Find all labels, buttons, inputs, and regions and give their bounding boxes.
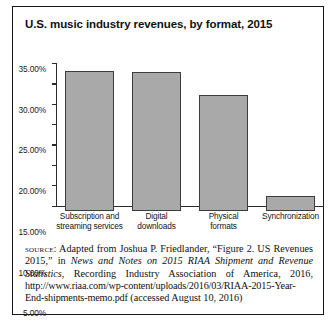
source-note: source: Adapted from Joshua P. Friedland… [25, 243, 313, 304]
y-axis-tick-mark: 5.00% [52, 185, 56, 186]
x-axis-category-label: Digitaldownloads [123, 211, 190, 231]
bar [132, 72, 181, 210]
x-axis-label-line: Physical [209, 211, 239, 221]
figure-frame: U.S. music industry revenues, by format,… [12, 6, 324, 315]
source-text-3: (accessed August 10, 2016) [128, 292, 243, 303]
x-axis-label-line: Synchronization [262, 211, 319, 221]
y-axis-tick-mark: 30.00% [52, 83, 56, 84]
bar [65, 71, 114, 211]
y-axis-tick-mark: 20.00% [52, 124, 56, 125]
x-axis-label-line: Subscription and [60, 211, 119, 221]
y-axis-tick-label: 30.00% [18, 105, 46, 114]
x-axis-label-line: downloads [137, 221, 175, 231]
y-axis-tick-label: 20.00% [18, 187, 46, 196]
y-axis-line [56, 63, 57, 206]
y-axis-tick-label: 35.00% [18, 65, 46, 74]
y-axis-tick-mark: 25.00% [52, 104, 56, 105]
bar [199, 95, 248, 211]
bar [266, 196, 315, 211]
y-axis-tick-mark: 15.00% [52, 144, 56, 145]
x-axis-label-line: Digital [145, 211, 167, 221]
source-label: source: [25, 244, 57, 254]
y-axis-tick-mark: 0.00% [52, 206, 56, 207]
y-axis-tick-mark: 10.00% [52, 165, 56, 166]
x-axis-category-label: Subscription andstreaming services [56, 211, 123, 231]
source-text-2: , Recording Industry Association of Amer… [62, 268, 313, 279]
x-axis-label-line: formats [210, 221, 237, 231]
y-axis-tick-mark: 35.00% [52, 63, 56, 64]
y-axis-tick-label: 5.00% [23, 309, 46, 318]
x-axis-category-label: Synchronization [257, 211, 324, 221]
x-axis-label-line: streaming services [56, 221, 122, 231]
bar-chart-plot-area: 0.00%5.00%10.00%15.00%20.00%25.00%30.00%… [56, 57, 324, 212]
y-axis-tick-label: 25.00% [18, 146, 46, 155]
y-axis-tick-label: 15.00% [18, 227, 46, 236]
chart-title: U.S. music industry revenues, by format,… [25, 17, 311, 31]
x-axis-category-label: Physicalformats [190, 211, 257, 231]
